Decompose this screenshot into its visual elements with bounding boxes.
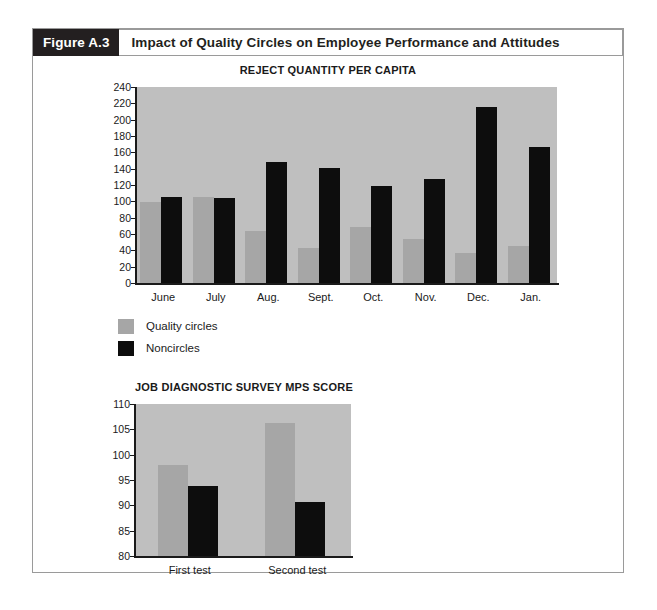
y-tick-mark (131, 185, 137, 186)
chart-1-x-axis (135, 283, 559, 285)
y-tick-mark (131, 103, 137, 104)
chart-2-title: JOB DIAGNOSTIC SURVEY MPS SCORE (109, 381, 379, 393)
bar-noncircles (319, 168, 340, 283)
y-tick-label: 60 (89, 229, 131, 240)
x-tick-label: Second test (224, 565, 372, 576)
legend-label-noncircles: Noncircles (146, 342, 200, 354)
bar-noncircles (214, 198, 235, 283)
bar-noncircles (161, 197, 182, 283)
bar-noncircles (188, 486, 218, 556)
chart-legend: Quality circles Noncircles (118, 315, 218, 359)
y-tick-mark (130, 455, 136, 456)
y-tick-mark (131, 283, 137, 284)
y-tick-mark (131, 234, 137, 235)
bar-quality-circles (265, 423, 295, 556)
y-tick-label: 200 (89, 115, 131, 126)
y-tick-label: 0 (89, 278, 131, 289)
bar-noncircles (529, 147, 550, 283)
y-tick-mark (130, 480, 136, 481)
y-tick-label: 40 (89, 245, 131, 256)
y-tick-label: 80 (89, 213, 131, 224)
bar-quality-circles (508, 246, 529, 283)
bar-noncircles (371, 186, 392, 283)
y-tick-label: 110 (88, 399, 130, 410)
y-tick-mark (131, 169, 137, 170)
y-tick-mark (131, 267, 137, 268)
bar-quality-circles (455, 253, 476, 283)
chart-2-x-axis (134, 556, 353, 558)
y-tick-label: 220 (89, 98, 131, 109)
figure-frame: Figure A.3 Impact of Quality Circles on … (32, 28, 624, 573)
y-tick-mark (131, 218, 137, 219)
bar-noncircles (476, 107, 497, 283)
legend-label-quality-circles: Quality circles (146, 320, 218, 332)
x-tick-label: Jan. (485, 292, 578, 303)
bar-quality-circles (245, 231, 266, 283)
figure-number-label: Figure A.3 (33, 29, 119, 56)
y-tick-label: 20 (89, 262, 131, 273)
y-tick-mark (131, 87, 137, 88)
y-tick-label: 120 (89, 180, 131, 191)
y-tick-label: 105 (88, 424, 130, 435)
y-tick-mark (131, 201, 137, 202)
bar-quality-circles (403, 239, 424, 283)
bar-quality-circles (298, 248, 319, 283)
y-tick-mark (130, 404, 136, 405)
bar-noncircles (295, 502, 325, 556)
y-tick-label: 180 (89, 131, 131, 142)
chart-reject-quantity: REJECT QUANTITY PER CAPITA 2402202001801… (33, 56, 623, 321)
y-tick-label: 140 (89, 164, 131, 175)
bar-quality-circles (350, 227, 371, 283)
bar-quality-circles (193, 197, 214, 283)
chart-1-y-axis (135, 87, 137, 285)
y-tick-mark (130, 429, 136, 430)
y-tick-mark (130, 505, 136, 506)
figure-header: Figure A.3 Impact of Quality Circles on … (33, 29, 623, 56)
legend-swatch-quality-circles (118, 319, 134, 334)
bar-quality-circles (158, 465, 188, 556)
legend-item: Quality circles (118, 315, 218, 337)
y-tick-label: 160 (89, 147, 131, 158)
y-tick-label: 100 (89, 196, 131, 207)
y-tick-mark (130, 556, 136, 557)
y-tick-label: 100 (88, 450, 130, 461)
y-tick-label: 240 (89, 82, 131, 93)
y-tick-mark (131, 136, 137, 137)
figure-title: Impact of Quality Circles on Employee Pe… (119, 29, 623, 56)
bar-noncircles (266, 162, 287, 283)
y-tick-label: 90 (88, 500, 130, 511)
y-tick-mark (131, 250, 137, 251)
y-tick-label: 85 (88, 526, 130, 537)
y-tick-label: 95 (88, 475, 130, 486)
chart-2-y-axis (134, 404, 136, 558)
legend-item: Noncircles (118, 337, 218, 359)
y-tick-mark (131, 152, 137, 153)
chart-1-title: REJECT QUANTITY PER CAPITA (33, 64, 623, 76)
y-tick-mark (130, 531, 136, 532)
bar-noncircles (424, 179, 445, 283)
bar-quality-circles (140, 202, 161, 283)
y-tick-mark (131, 120, 137, 121)
legend-swatch-noncircles (118, 341, 134, 356)
y-tick-label: 80 (88, 551, 130, 562)
chart-mps-score: JOB DIAGNOSTIC SURVEY MPS SCORE 11010510… (33, 381, 623, 571)
